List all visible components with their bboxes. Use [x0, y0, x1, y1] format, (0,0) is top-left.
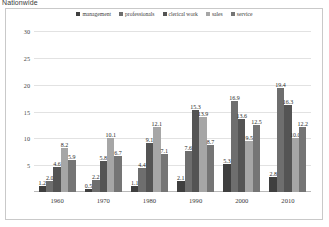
legend-item-sales[interactable]: sales	[206, 11, 223, 17]
bar-clerical-work-2000[interactable]: 13.6	[238, 119, 245, 192]
bar-clerical-work-2010[interactable]: 16.3	[284, 105, 291, 192]
bar-value-label: 7.1	[160, 148, 168, 154]
bar-service-1970[interactable]: 6.7	[114, 156, 121, 192]
chart-legend: managementprofessionalsclerical worksale…	[0, 11, 329, 17]
bar-value-label: 4.6	[53, 161, 61, 167]
bar-group-2000: 5.316.913.69.512.52000	[219, 31, 265, 192]
bar-service-1960[interactable]: 5.9	[68, 160, 75, 192]
bar-fill	[192, 110, 199, 192]
bar-group-1990: 2.17.615.313.98.71990	[173, 31, 219, 192]
bar-sales-1970[interactable]: 10.1	[107, 138, 114, 192]
bar-clerical-work-1990[interactable]: 15.3	[192, 110, 199, 192]
legend-label: professionals	[125, 11, 155, 17]
bar-fill	[146, 143, 153, 192]
bar-fill	[161, 154, 168, 192]
bar-service-1990[interactable]: 8.7	[207, 145, 214, 192]
bar-value-label: 13.6	[237, 113, 248, 119]
bar-professionals-1980[interactable]: 4.4	[138, 168, 145, 192]
x-axis-tick-label: 2000	[219, 197, 265, 204]
bar-fill	[207, 145, 214, 192]
bar-fill	[299, 127, 306, 192]
bar-fill	[114, 156, 121, 192]
bar-fill	[223, 164, 230, 192]
bar-value-label: 8.7	[207, 139, 215, 145]
bar-fill	[199, 117, 206, 192]
bar-value-label: 7.6	[184, 145, 192, 151]
page-title: Nationwide	[2, 0, 38, 6]
bar-fill	[292, 138, 299, 192]
bar-clerical-work-1960[interactable]: 4.6	[53, 167, 60, 192]
bar-management-2010[interactable]: 2.8	[269, 177, 276, 192]
x-axis-tick-label: 1990	[173, 197, 219, 204]
bar-clerical-work-1970[interactable]: 5.8	[100, 161, 107, 192]
bar-value-label: 15.3	[190, 104, 201, 110]
legend-item-service[interactable]: service	[231, 11, 253, 17]
bar-value-label: 2.1	[177, 175, 185, 181]
bar-fill	[253, 125, 260, 192]
y-axis-tick-label: 10	[24, 135, 30, 142]
bar-group-1970: 0.52.25.810.16.71970	[80, 31, 126, 192]
bar-management-1980[interactable]: 1.1	[131, 186, 138, 192]
bar-value-label: 2.2	[92, 174, 100, 180]
bar-fill	[238, 119, 245, 192]
legend-item-clerical-work[interactable]: clerical work	[163, 11, 198, 17]
bar-service-2000[interactable]: 12.5	[253, 125, 260, 192]
bar-value-label: 13.9	[198, 111, 209, 117]
y-axis-tick-label: 15	[24, 108, 30, 115]
bar-management-1960[interactable]: 1.2	[39, 186, 46, 192]
legend-label: clerical work	[169, 11, 198, 17]
bar-value-label: 2.0	[46, 175, 54, 181]
x-axis-tick-label: 1960	[34, 197, 80, 204]
bar-value-label: 5.3	[223, 158, 231, 164]
legend-label: service	[237, 11, 253, 17]
bar-management-1990[interactable]: 2.1	[177, 181, 184, 192]
bar-clerical-work-1980[interactable]: 9.1	[146, 143, 153, 192]
bar-groups: 1.22.04.68.25.919600.52.25.810.16.719701…	[34, 31, 311, 192]
legend-item-management[interactable]: management	[76, 11, 111, 17]
bar-professionals-1960[interactable]: 2.0	[46, 181, 53, 192]
bar-value-label: 16.3	[283, 99, 294, 105]
legend-label: sales	[212, 11, 223, 17]
bar-professionals-1970[interactable]: 2.2	[92, 180, 99, 192]
bar-fill	[53, 167, 60, 192]
y-axis-tick-label: 30	[24, 28, 30, 35]
bar-service-2010[interactable]: 12.2	[299, 127, 306, 192]
bar-fill	[177, 181, 184, 192]
bar-value-label: 0.5	[85, 183, 93, 189]
bar-management-1970[interactable]: 0.5	[85, 189, 92, 192]
bar-value-label: 12.5	[251, 119, 262, 125]
bar-value-label: 9.5	[245, 135, 253, 141]
chart-screenshot: Nationwide managementprofessionalscleric…	[0, 0, 329, 227]
bar-sales-1980[interactable]: 12.1	[153, 127, 160, 192]
bar-management-2000[interactable]: 5.3	[223, 164, 230, 192]
bar-fill	[153, 127, 160, 192]
bar-fill	[131, 186, 138, 192]
legend-label: management	[82, 11, 111, 17]
bar-value-label: 1.1	[131, 180, 139, 186]
bar-professionals-1990[interactable]: 7.6	[185, 151, 192, 192]
bar-group-2010: 2.819.416.310.012.22010	[265, 31, 311, 192]
bar-fill	[39, 186, 46, 192]
bar-value-label: 9.1	[146, 137, 154, 143]
y-axis-tick-label: 5	[27, 162, 30, 169]
bar-service-1980[interactable]: 7.1	[161, 154, 168, 192]
bar-group-1960: 1.22.04.68.25.91960	[34, 31, 80, 192]
bar-value-label: 5.9	[68, 154, 76, 160]
bar-sales-1960[interactable]: 8.2	[61, 148, 68, 192]
plot-area: 51015202530 1.22.04.68.25.919600.52.25.8…	[34, 31, 311, 192]
bar-sales-2010[interactable]: 10.0	[292, 138, 299, 192]
legend-swatch-icon	[231, 12, 235, 16]
bar-fill	[284, 105, 291, 192]
legend-swatch-icon	[206, 12, 210, 16]
bar-value-label: 12.2	[297, 121, 308, 127]
legend-item-professionals[interactable]: professionals	[119, 11, 155, 17]
bar-sales-2000[interactable]: 9.5	[245, 141, 252, 192]
bar-fill	[138, 168, 145, 192]
bar-sales-1990[interactable]: 13.9	[199, 117, 206, 192]
x-axis-tick-label: 2010	[265, 197, 311, 204]
bar-value-label: 4.4	[138, 162, 146, 168]
bar-value-label: 1.2	[39, 180, 47, 186]
bar-fill	[245, 141, 252, 192]
bar-value-label: 16.9	[229, 95, 240, 101]
bar-group-1980: 1.14.49.112.17.11980	[126, 31, 172, 192]
